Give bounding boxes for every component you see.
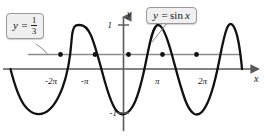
intersection-point	[58, 52, 63, 57]
y-axis-label: y	[126, 8, 132, 19]
callout-y-equals-sin-x: y = sin x	[146, 7, 197, 24]
fraction-denominator: 3	[31, 27, 37, 36]
callout-y-equals-one-third: y = 1 3	[6, 13, 44, 39]
x-tick-label-2pi: 2π	[198, 76, 208, 86]
callout-right-lhs: y =	[153, 10, 168, 21]
intersection-point	[93, 52, 98, 57]
y-tick-label-minus1: -1	[110, 108, 118, 118]
callout-right-function: sin	[170, 10, 183, 21]
intersection-point	[160, 52, 165, 57]
x-tick-label-minus-pi: -π	[81, 76, 89, 86]
intersection-point	[126, 52, 131, 57]
fraction-numerator: 1	[31, 16, 37, 25]
x-tick-label-minus-2pi: -2π	[45, 76, 57, 86]
callout-left-lhs: y =	[13, 20, 28, 31]
leader-line-one-third	[36, 44, 48, 55]
callout-right-argument: x	[185, 10, 190, 21]
sine-intersection-figure: 1 -1 -2π -π π 2π y x y = 1 3 y = sin x	[0, 0, 270, 140]
x-tick-label-pi: π	[155, 76, 160, 86]
x-axis-label: x	[253, 73, 259, 84]
intersection-point	[194, 52, 199, 57]
fraction-one-third: 1 3	[31, 16, 37, 36]
y-tick-label-1: 1	[108, 20, 113, 30]
